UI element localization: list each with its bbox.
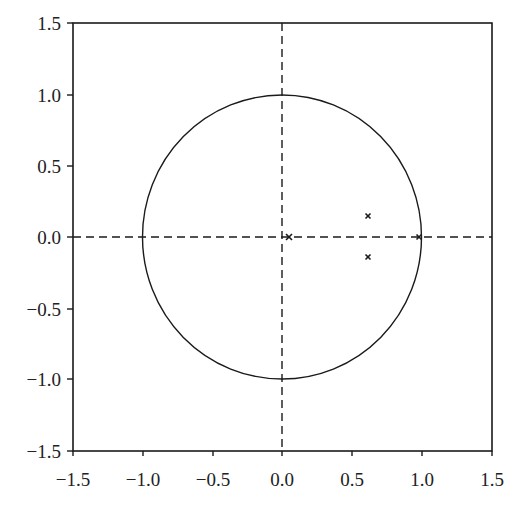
x-marker-icon (366, 214, 371, 219)
x-marker-icon (366, 255, 371, 260)
y-tick-label: 0.5 (37, 156, 61, 177)
y-tick-label: −0.5 (27, 299, 61, 320)
pole-zero-chart: −1.5 −1.0 −0.5 0.0 0.5 1.0 1.5 1.5 1.0 0… (0, 0, 519, 505)
x-tick-label: 1.5 (480, 469, 504, 490)
x-tick-label: 0.0 (270, 469, 294, 490)
y-tick-label: −1.0 (27, 369, 61, 390)
y-axis-ticks (67, 23, 73, 451)
x-tick-label: 0.5 (340, 469, 364, 490)
y-tick-label: 1.5 (37, 13, 61, 34)
x-tick-label: −1.5 (56, 469, 90, 490)
x-tick-labels: −1.5 −1.0 −0.5 0.0 0.5 1.0 1.5 (56, 469, 504, 490)
y-tick-label: 1.0 (37, 85, 61, 106)
x-tick-label: 1.0 (410, 469, 434, 490)
x-tick-label: −0.5 (196, 469, 230, 490)
y-tick-label: 0.0 (37, 227, 61, 248)
y-tick-labels: 1.5 1.0 0.5 0.0 −0.5 −1.0 −1.5 (27, 13, 61, 462)
y-tick-label: −1.5 (27, 441, 61, 462)
x-tick-label: −1.0 (126, 469, 160, 490)
